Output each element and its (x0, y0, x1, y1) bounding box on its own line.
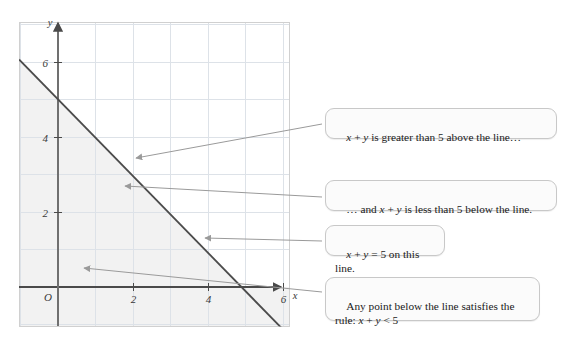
callout-below-the-line: … and x + y is less than 5 below the lin… (325, 180, 557, 211)
x-tick-label-2: 2 (131, 293, 137, 305)
y-axis-label: y (47, 17, 53, 28)
y-tick-label-6: 6 (43, 57, 49, 69)
callout-above-the-line: x + y is greater than 5 above the line… (325, 108, 557, 139)
y-tick-label-4: 4 (43, 132, 49, 144)
y-tick-label-2: 2 (43, 207, 49, 219)
shaded-region-lower-strip (19, 287, 290, 327)
x-tick-label-6: 6 (281, 293, 287, 305)
math-figure: 2 4 6 2 4 6 O x y x + y is greater than … (0, 0, 568, 343)
callout-inequality-rule: Any point below the line satisfies the r… (325, 277, 540, 321)
x-tick-label-4: 4 (206, 293, 212, 305)
x-axis-label: x (292, 290, 298, 301)
callout-below-text: … and x + y is less than 5 below the lin… (346, 203, 532, 215)
callout-above-text: x + y is greater than 5 above the line… (346, 131, 521, 143)
callout-on-the-line: x + y = 5 on this line. (325, 225, 445, 256)
origin-label: O (44, 291, 52, 303)
